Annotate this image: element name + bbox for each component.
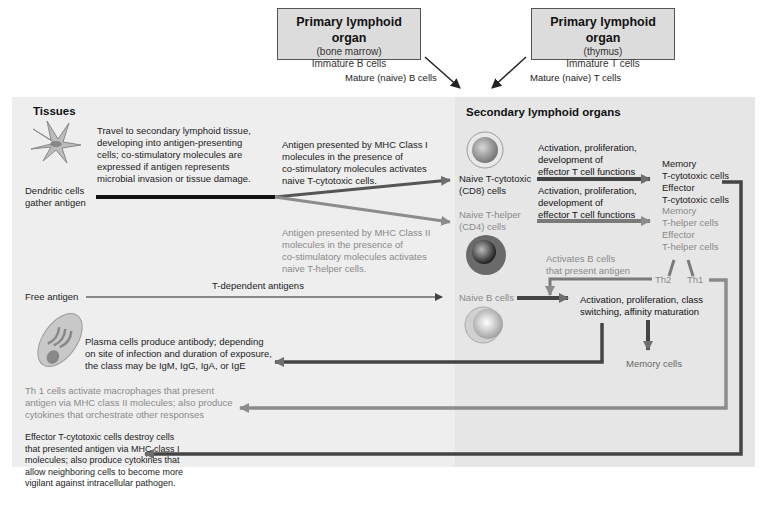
line: gather antigen bbox=[25, 197, 86, 209]
line: developing into antigen-presenting bbox=[97, 137, 251, 149]
line: Activation, proliferation, bbox=[538, 142, 637, 154]
line: Naive T-helper bbox=[459, 209, 521, 221]
activation-t-cytotoxic-label: Activation, proliferation, development o… bbox=[538, 142, 637, 178]
line: cytokines that orchestrate other respons… bbox=[25, 409, 233, 421]
line: cells; co-stimulatory molecules are bbox=[97, 149, 251, 161]
line: molecules; also produce cytokines that bbox=[25, 455, 183, 467]
line: development of bbox=[538, 197, 637, 209]
line: co-stimulatory molecules activates bbox=[282, 163, 428, 175]
line: Naive T-cytotoxic bbox=[459, 173, 531, 185]
naive-t-helper-cell-icon bbox=[466, 235, 506, 275]
activates-b-cells-label: Activates B cells that present antigen bbox=[546, 253, 630, 277]
line: that present antigen bbox=[546, 265, 630, 277]
mhc-class-2-description: Antigen presented by MHC Class II molecu… bbox=[282, 227, 430, 275]
line: antigen via MHC class II molecules; also… bbox=[25, 397, 233, 409]
naive-t-helper-label: Naive T-helper (CD4) cells bbox=[459, 209, 521, 233]
line: microbial invasion or tissue damage. bbox=[97, 173, 251, 185]
line: Memory bbox=[662, 158, 729, 170]
b-activation-label: Activation, proliferation, class switchi… bbox=[580, 294, 703, 318]
dendritic-cells-label: Dendritic cells gather antigen bbox=[25, 185, 86, 209]
line: Antigen presented by MHC Class II bbox=[282, 227, 430, 239]
line: Activation, proliferation, bbox=[538, 185, 637, 197]
line: Effector bbox=[662, 182, 729, 194]
effector-t-cytotoxic-description: Effector T-cytotoxic cells destroy cells… bbox=[25, 432, 183, 490]
line: Th 1 cells activate macrophages that pre… bbox=[25, 385, 233, 397]
line: that presented antigen via MHC class I bbox=[25, 444, 183, 456]
naive-t-cytotoxic-label: Naive T-cytotoxic (CD8) cells bbox=[459, 173, 531, 197]
effector-t-cytotoxic-label: Effector T-cytotoxic cells bbox=[662, 182, 729, 206]
naive-b-cell-icon bbox=[465, 307, 503, 343]
line: Memory bbox=[662, 205, 719, 217]
line: Dendritic cells bbox=[25, 185, 86, 197]
line: effector T cell functions bbox=[538, 209, 637, 221]
dendritic-description: Travel to secondary lymphoid tissue, dev… bbox=[97, 125, 251, 185]
line: development of bbox=[538, 154, 637, 166]
th1-label: Th1 bbox=[687, 274, 703, 286]
effector-t-helper-label: Effector T-helper cells bbox=[662, 229, 719, 253]
line: the class may be IgM, IgG, IgA, or IgE bbox=[85, 360, 272, 372]
line: allow neighboring cells to become more bbox=[25, 467, 183, 479]
line: effector T cell functions bbox=[538, 166, 637, 178]
line: molecules in the presence of bbox=[282, 239, 430, 251]
line: Activation, proliferation, class bbox=[580, 294, 703, 306]
activation-t-helper-label: Activation, proliferation, development o… bbox=[538, 185, 637, 221]
plasma-cell-icon bbox=[29, 306, 91, 375]
th1-description: Th 1 cells activate macrophages that pre… bbox=[25, 385, 233, 421]
memory-cells-label: Memory cells bbox=[626, 358, 682, 370]
line: on site of infection and duration of exp… bbox=[85, 348, 272, 360]
naive-b-cells-label: Naive B cells bbox=[459, 292, 514, 304]
line: switching, affinity maturation bbox=[580, 306, 703, 318]
line: vigilant against intracellular pathogen. bbox=[25, 478, 183, 490]
memory-t-helper-label: Memory T-helper cells bbox=[662, 205, 719, 229]
line: T-helper cells bbox=[662, 217, 719, 229]
line: co-stimulatory molecules activates bbox=[282, 251, 430, 263]
line: T-cytotoxic cells bbox=[662, 170, 729, 182]
line: Plasma cells produce antibody; depending bbox=[85, 336, 272, 348]
line: naive T-helper cells. bbox=[282, 263, 430, 275]
free-antigen-label: Free antigen bbox=[25, 291, 78, 303]
line: naive T-cytotoxic cells. bbox=[282, 175, 428, 187]
plasma-cells-description: Plasma cells produce antibody; depending… bbox=[85, 336, 272, 372]
line: T-helper cells bbox=[662, 241, 719, 253]
mhc-class-1-description: Antigen presented by MHC Class I molecul… bbox=[282, 139, 428, 187]
line: (CD8) cells bbox=[459, 185, 531, 197]
line: molecules in the presence of bbox=[282, 151, 428, 163]
line: Effector bbox=[662, 229, 719, 241]
dendritic-cell-icon bbox=[31, 121, 81, 163]
memory-t-cytotoxic-label: Memory T-cytotoxic cells bbox=[662, 158, 729, 182]
line: Activates B cells bbox=[546, 253, 630, 265]
line: Effector T-cytotoxic cells destroy cells bbox=[25, 432, 183, 444]
line: (CD4) cells bbox=[459, 221, 521, 233]
naive-t-cytotoxic-cell-icon bbox=[467, 132, 503, 168]
line: Antigen presented by MHC Class I bbox=[282, 139, 428, 151]
t-dependent-antigens-label: T-dependent antigens bbox=[212, 280, 304, 292]
th2-label: Th2 bbox=[655, 274, 671, 286]
line: Travel to secondary lymphoid tissue, bbox=[97, 125, 251, 137]
line: expressed if antigen represents bbox=[97, 161, 251, 173]
